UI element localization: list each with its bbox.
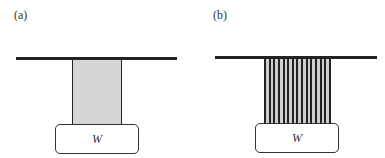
fiber-strand [329, 59, 331, 123]
panel-b-fiber-bundle [264, 59, 331, 123]
panel-b-weight-box: W [255, 123, 339, 153]
panel-b-weight-label: W [292, 131, 302, 146]
panel-a-solid-column [72, 60, 122, 124]
panel-b-label: (b) [213, 8, 227, 23]
panel-a-weight-box: W [55, 124, 139, 154]
panel-a-weight-label: W [92, 132, 102, 147]
panel-a-label: (a) [14, 8, 27, 23]
